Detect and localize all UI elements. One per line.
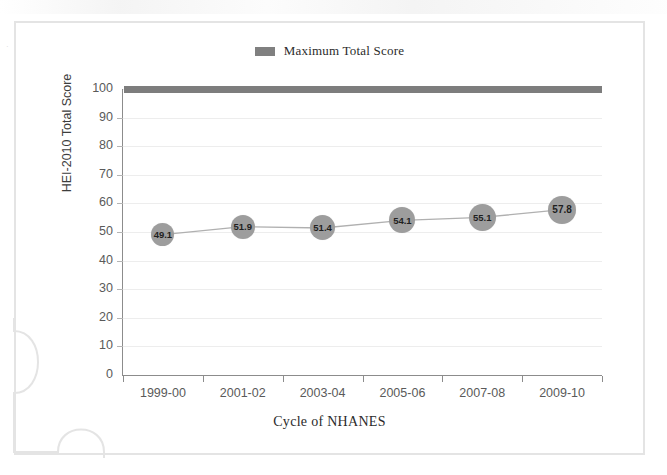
x-axis-tick-label: 2009-10 xyxy=(512,386,612,400)
data-point-marker: 55.1 xyxy=(469,204,496,231)
data-point-marker: 57.8 xyxy=(548,196,576,224)
scan-artifact-top-band xyxy=(0,0,667,14)
data-point-marker: 51.9 xyxy=(231,215,255,239)
series-polyline xyxy=(163,210,562,235)
x-axis-title: Cycle of NHANES xyxy=(14,414,645,430)
scan-speck-icon: · xyxy=(6,44,11,49)
chart-area: Maximum Total Score HEI-2010 Total Score… xyxy=(14,21,645,455)
